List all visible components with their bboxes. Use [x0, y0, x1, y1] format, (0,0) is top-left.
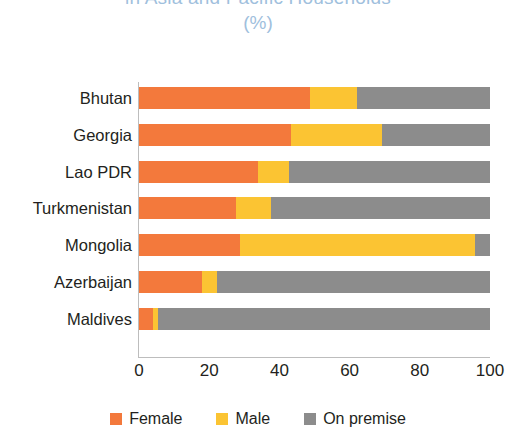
legend-item-on-premise[interactable]: On premise [304, 409, 406, 429]
y-axis-label-mongolia: Mongolia [2, 234, 132, 256]
bar-segment-female [139, 234, 240, 256]
y-axis-label-azerbaijan: Azerbaijan [2, 271, 132, 293]
chart-legend: FemaleMaleOn premise [0, 409, 516, 429]
bar-segment-on-premise [217, 271, 490, 293]
bar-segment-female [139, 271, 202, 293]
legend-label: Female [129, 409, 182, 429]
bar-segment-female [139, 308, 153, 330]
x-axis-line [138, 357, 490, 358]
y-axis-label-georgia: Georgia [2, 124, 132, 146]
bar-segment-on-premise [271, 197, 490, 219]
bar-segment-male [310, 87, 357, 109]
x-axis-tick-labels: 020406080100 [139, 360, 490, 384]
legend-item-female[interactable]: Female [110, 409, 182, 429]
bar-segment-on-premise [158, 308, 490, 330]
bar-row [139, 271, 490, 293]
bar-row [139, 87, 490, 109]
x-axis-tick-0: 0 [134, 360, 143, 382]
legend-item-male[interactable]: Male [216, 409, 270, 429]
bar-segment-male [202, 271, 217, 293]
bar-segment-male [240, 234, 475, 256]
x-axis-tick-40: 40 [270, 360, 289, 382]
y-axis-label-turkmenistan: Turkmenistan [2, 197, 132, 219]
chart-subtitle: (%) [0, 10, 516, 36]
stacked-bar-chart: in Asia and Pacific Households (%) Bhuta… [0, 0, 516, 440]
bar-segment-on-premise [382, 124, 490, 146]
legend-swatch-icon [110, 413, 122, 425]
bar-segment-on-premise [289, 161, 490, 183]
bar-segment-female [139, 161, 258, 183]
y-axis-category-labels: BhutanGeorgiaLao PDRTurkmenistanMongolia… [0, 82, 132, 357]
bar-row [139, 234, 490, 256]
bar-segment-female [139, 124, 291, 146]
bar-segment-female [139, 197, 236, 219]
bar-segment-on-premise [475, 234, 490, 256]
x-axis-tick-60: 60 [340, 360, 359, 382]
bar-segment-on-premise [357, 87, 490, 109]
bar-row [139, 197, 490, 219]
bar-segment-female [139, 87, 310, 109]
legend-label: Male [235, 409, 270, 429]
x-axis-tick-20: 20 [200, 360, 219, 382]
plot-area [139, 82, 490, 357]
chart-title-block: in Asia and Pacific Households (%) [0, 0, 516, 36]
bar-segment-male [291, 124, 382, 146]
bar-row [139, 124, 490, 146]
legend-swatch-icon [216, 413, 228, 425]
y-axis-label-lao-pdr: Lao PDR [2, 161, 132, 183]
bar-row [139, 161, 490, 183]
x-axis-tick-80: 80 [410, 360, 429, 382]
x-axis-tick-100: 100 [476, 360, 504, 382]
bar-segment-male [258, 161, 289, 183]
y-axis-label-maldives: Maldives [2, 308, 132, 330]
y-axis-label-bhutan: Bhutan [2, 87, 132, 109]
legend-label: On premise [323, 409, 406, 429]
bar-row [139, 308, 490, 330]
chart-title: in Asia and Pacific Households [0, 0, 516, 10]
legend-swatch-icon [304, 413, 316, 425]
bar-segment-male [236, 197, 271, 219]
